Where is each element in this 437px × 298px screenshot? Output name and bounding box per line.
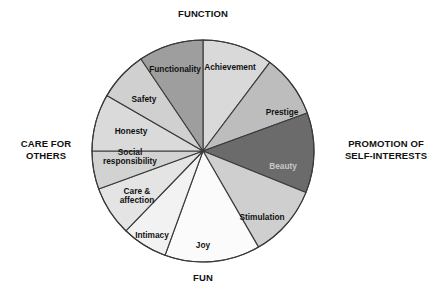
pie-slice-group — [92, 40, 314, 262]
axis-label-care-for-others: CARE FOR OTHERS — [4, 138, 88, 161]
diagram-canvas: AchievementPrestigeBeautyStimulationJoyI… — [0, 0, 437, 298]
axis-label-promotion-of-self-interests: PROMOTION OF SELF-INTERESTS — [338, 138, 434, 161]
axis-label-function: FUNCTION — [148, 8, 258, 20]
axis-label-fun: FUN — [148, 272, 258, 284]
